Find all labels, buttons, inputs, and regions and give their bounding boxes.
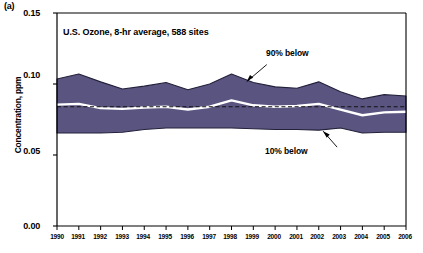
plot-area — [57, 65, 406, 148]
ozone-percentile-band-chart — [0, 0, 423, 253]
leader-arrow-10-percent — [323, 131, 330, 138]
percentile-band-area — [57, 74, 406, 133]
figure-panel-a: (a) Concentration, ppm 0.15 0.10 0.05 0.… — [0, 0, 423, 253]
leader-arrow-90-percent — [247, 75, 254, 82]
